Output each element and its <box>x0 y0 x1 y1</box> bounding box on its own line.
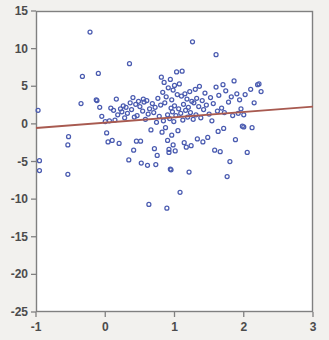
y-axis-tick-label: -10 <box>11 193 28 205</box>
y-axis-tick-label: 10 <box>15 43 28 55</box>
x-axis-tick-label: 1 <box>155 321 195 333</box>
y-axis-tick-label: 15 <box>15 5 28 17</box>
y-axis-tick-label: 0 <box>21 118 28 130</box>
y-axis-tick-label: -25 <box>11 306 28 318</box>
scatter-chart: 151050-5-10-15-20-25-10123 <box>0 0 329 340</box>
y-axis-tick-label: -5 <box>17 156 28 168</box>
x-axis-tick-label: 3 <box>293 321 329 333</box>
x-axis-tick-label: -1 <box>16 321 56 333</box>
y-axis-tick-label: -20 <box>11 268 28 280</box>
x-axis-tick-label: 2 <box>224 321 264 333</box>
plot-canvas <box>0 0 329 340</box>
x-axis-tick-label: 0 <box>85 321 125 333</box>
y-axis-tick-label: -15 <box>11 231 28 243</box>
y-axis-tick-label: 5 <box>21 80 28 92</box>
plot-area-background <box>36 11 313 312</box>
